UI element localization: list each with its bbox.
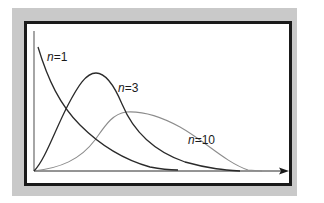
curve-n1 bbox=[38, 47, 178, 170]
label-n1: n=1 bbox=[47, 50, 68, 64]
chart-plot: n=1 n=3 n=10 bbox=[0, 0, 324, 203]
label-n10: n=10 bbox=[188, 133, 215, 147]
label-n3: n=3 bbox=[118, 81, 139, 95]
